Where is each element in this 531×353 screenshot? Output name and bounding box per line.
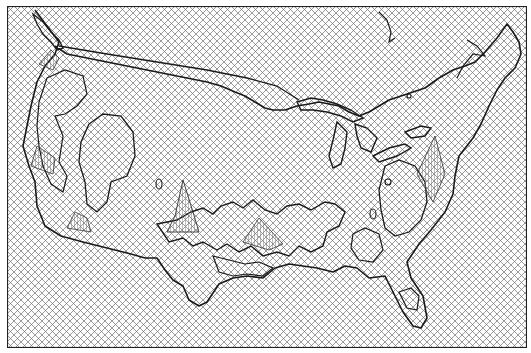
wireframe-map	[7, 6, 527, 348]
map-frame	[7, 6, 527, 348]
